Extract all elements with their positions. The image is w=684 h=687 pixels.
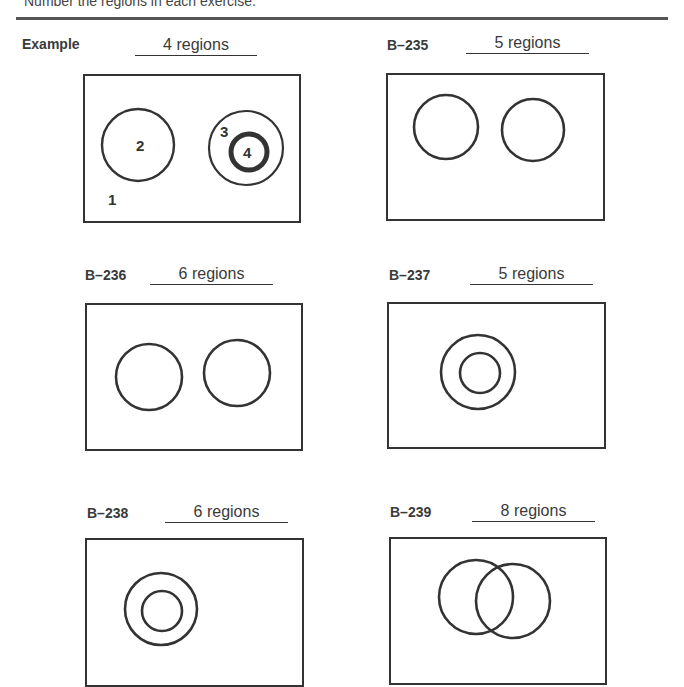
b235-circle-right bbox=[502, 99, 564, 161]
b236-circle-left bbox=[116, 344, 182, 410]
b235-circle-left bbox=[414, 95, 478, 159]
example-region-1: 1 bbox=[108, 191, 116, 208]
b238-circle-inner bbox=[142, 591, 182, 631]
example-region-2: 2 bbox=[136, 137, 144, 154]
b238-circle-outer bbox=[125, 573, 197, 645]
b237-box bbox=[388, 303, 605, 448]
b236-circle-right bbox=[204, 340, 270, 406]
b238-box bbox=[86, 539, 303, 686]
b237-circle-inner bbox=[460, 353, 500, 393]
b239-box bbox=[390, 538, 606, 684]
example-region-3: 3 bbox=[220, 123, 228, 140]
figures-canvas: 2 3 4 1 bbox=[0, 0, 684, 687]
example-region-4: 4 bbox=[243, 144, 252, 161]
b237-circle-outer bbox=[441, 335, 515, 409]
